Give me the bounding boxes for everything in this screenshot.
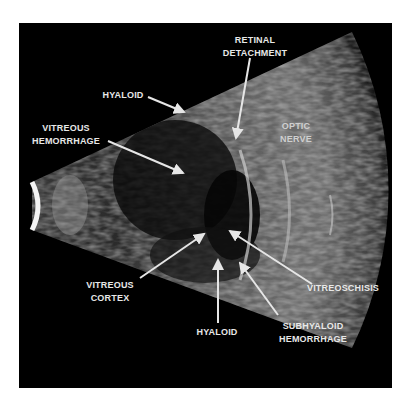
label-optic-nerve-line1: OPTIC xyxy=(282,121,311,131)
label-hyaloid-top: HYALOID xyxy=(102,90,143,100)
ultrasound-figure: RETINAL DETACHMENT HYALOID VITREOUS HEMO… xyxy=(0,0,413,411)
label-retinal-detachment-line1: RETINAL xyxy=(235,35,276,45)
label-vitreous-hemorrhage-line1: VITREOUS xyxy=(42,123,90,133)
label-subhyaloid-hemorrhage-line1: SUBHYALOID xyxy=(283,321,344,331)
label-hyaloid-bottom: HYALOID xyxy=(196,327,237,337)
label-vitreous-cortex-line2: CORTEX xyxy=(91,293,130,303)
label-retinal-detachment-line2: DETACHMENT xyxy=(223,48,288,58)
label-vitreous-hemorrhage-line2: HEMORRHAGE xyxy=(32,136,100,146)
label-vitreoschisis: VITREOSCHISIS xyxy=(307,283,379,293)
label-vitreous-cortex-line1: VITREOUS xyxy=(86,280,134,290)
label-subhyaloid-hemorrhage-line2: HEMORRHAGE xyxy=(279,334,347,344)
label-optic-nerve-line2: NERVE xyxy=(280,134,312,144)
